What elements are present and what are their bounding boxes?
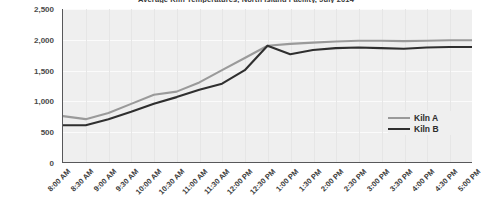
chart-container: Average Kiln Temperatures, North Island … [0,0,492,222]
x-axis-tick-labels: 8:00 AM8:30 AM9:00 AM9:30 AM10:00 AM10:3… [0,0,492,222]
